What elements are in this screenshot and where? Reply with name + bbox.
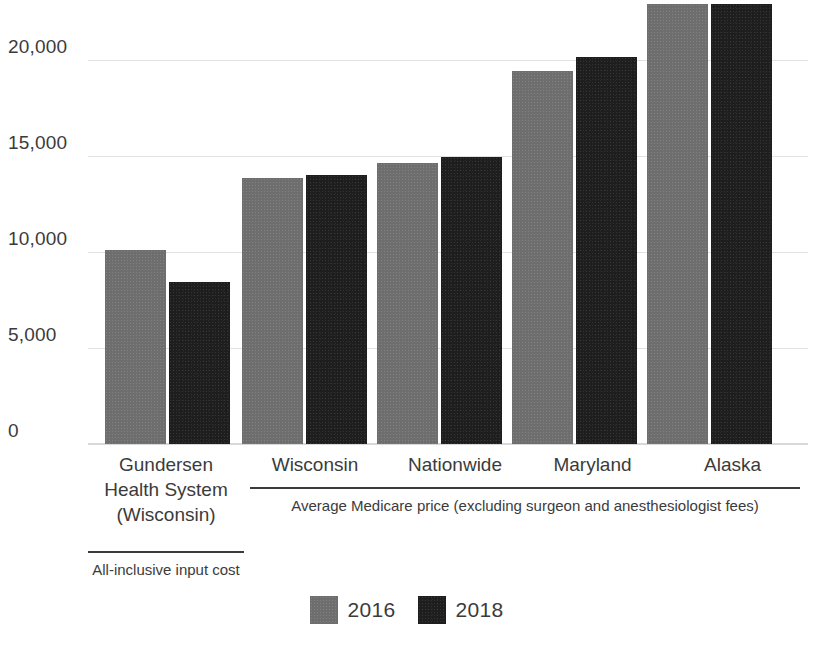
legend-label: 2018 bbox=[456, 598, 504, 622]
bar-2018-maryland bbox=[576, 57, 637, 444]
bars-layer bbox=[0, 0, 813, 444]
bar-chart: 20,000 15,000 10,000 5,000 0 Gundersen H… bbox=[0, 0, 813, 649]
bar-2016-maryland bbox=[512, 71, 573, 444]
bar-2016-wisconsin bbox=[242, 178, 303, 444]
bar-2016-nationwide bbox=[377, 163, 438, 444]
plot-area: 20,000 15,000 10,000 5,000 0 bbox=[0, 0, 813, 446]
bar-2018-gundersen-health-system-wisconsin bbox=[169, 282, 230, 444]
bracket-caption-all-inclusive: All-inclusive input cost bbox=[60, 561, 272, 578]
bar-2016-gundersen-health-system-wisconsin bbox=[105, 250, 166, 444]
bar-2018-alaska bbox=[711, 4, 772, 444]
legend-item-2016[interactable]: 2016 bbox=[310, 596, 396, 624]
bar-2018-nationwide bbox=[441, 157, 502, 444]
bar-2016-alaska bbox=[647, 4, 708, 444]
x-category-label-alaska: Alaska bbox=[625, 452, 813, 477]
legend-swatch-2018-icon bbox=[418, 596, 446, 624]
bracket-line-medicare bbox=[250, 487, 800, 489]
cat-line: Alaska bbox=[625, 452, 813, 477]
legend-label: 2016 bbox=[348, 598, 396, 622]
bracket-line-all-inclusive bbox=[88, 551, 244, 553]
legend-swatch-2016-icon bbox=[310, 596, 338, 624]
bracket-caption-medicare: Average Medicare price (excluding surgeo… bbox=[250, 497, 800, 514]
legend-item-2018[interactable]: 2018 bbox=[418, 596, 504, 624]
legend: 2016 2018 bbox=[0, 596, 813, 624]
bar-2018-wisconsin bbox=[306, 175, 367, 444]
